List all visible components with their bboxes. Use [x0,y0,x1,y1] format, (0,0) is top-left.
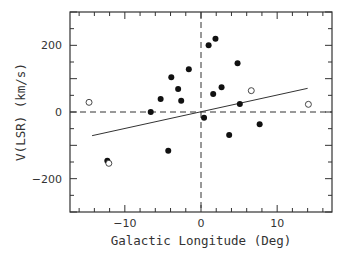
open-data-point [248,88,254,94]
filled-data-point [235,60,241,66]
filled-data-point [186,66,192,72]
filled-data-point [226,132,232,138]
x-axis-title: Galactic Longitude (Deg) [111,233,292,248]
filled-data-point [165,148,171,154]
filled-data-point [175,86,181,92]
y-axis-title: V(LSR) (km/s) [13,63,28,161]
open-data-point [86,99,92,105]
filled-data-point [178,98,184,104]
filled-data-point [168,74,174,80]
x-tick-label: 10 [270,217,284,230]
filled-data-point [148,109,154,115]
filled-data-point [201,115,207,121]
filled-data-point [212,36,218,42]
y-tick-label: 200 [41,39,62,52]
x-tick-label: 0 [198,217,205,230]
filled-data-point [210,91,216,97]
y-tick-label: 0 [55,106,62,119]
open-data-point [305,101,311,107]
scatter-chart: −10010−2000200Galactic Longitude (Deg)V(… [0,0,343,261]
filled-data-point [237,101,243,107]
x-tick-label: −10 [113,217,136,230]
filled-data-point [219,84,225,90]
y-tick-label: −200 [32,173,62,186]
filled-data-point [257,121,263,127]
filled-data-point [158,96,164,102]
filled-data-point [206,42,212,48]
open-data-point [106,160,112,166]
